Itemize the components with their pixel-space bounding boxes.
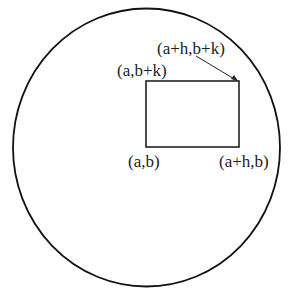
label-bottom-left: (a,b) bbox=[128, 152, 160, 171]
pointer-arrow bbox=[196, 56, 236, 80]
diagram-canvas: (a+h,b+k) (a,b+k) (a,b) (a+h,b) bbox=[0, 0, 290, 292]
label-top-right: (a+h,b+k) bbox=[157, 39, 225, 58]
label-top-left: (a,b+k) bbox=[117, 61, 167, 80]
label-bottom-right: (a+h,b) bbox=[219, 152, 269, 171]
arrowhead-icon bbox=[231, 75, 238, 81]
rectangle bbox=[146, 81, 239, 147]
